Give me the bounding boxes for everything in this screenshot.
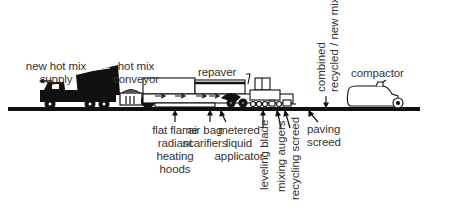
label-line: recycled / new mix bbox=[328, 0, 341, 92]
label-repaver: repaver bbox=[198, 66, 236, 79]
label-line: new hot mix bbox=[22, 60, 90, 73]
label-line: hot mix bbox=[108, 60, 164, 73]
paving-train-illustration bbox=[0, 0, 450, 211]
label-metered-liquid-applicator: metered liquid applicator bbox=[214, 124, 264, 163]
label-line: screed bbox=[307, 136, 341, 149]
label-line: liquid bbox=[214, 137, 264, 150]
label-line: heating bbox=[147, 150, 203, 163]
label-line: paving bbox=[307, 123, 341, 136]
label-recycling-screed: recycling screed bbox=[289, 117, 302, 200]
label-combined-mix: combined recycled / new mix bbox=[315, 0, 341, 92]
label-leveling-blade: leveling blade bbox=[258, 120, 271, 190]
label-line: applicator bbox=[214, 150, 264, 163]
label-line: supply bbox=[22, 73, 90, 86]
label-line: conveyor bbox=[108, 73, 164, 86]
label-new-hot-mix-supply: new hot mix supply bbox=[22, 60, 90, 86]
compactor bbox=[347, 80, 403, 108]
label-line: hoods bbox=[147, 163, 203, 176]
road-surface bbox=[8, 107, 420, 111]
label-hot-mix-conveyor: hot mix conveyor bbox=[108, 60, 164, 86]
label-compactor: compactor bbox=[351, 67, 404, 80]
label-line: combined bbox=[315, 0, 328, 92]
label-mixing-augers: mixing augers bbox=[275, 120, 288, 192]
label-line: metered bbox=[214, 124, 264, 137]
label-paving-screed: paving screed bbox=[307, 123, 341, 149]
